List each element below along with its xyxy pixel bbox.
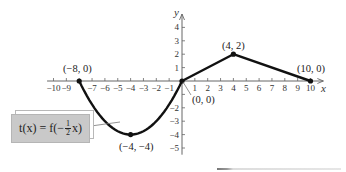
point-label-10-0: (10, 0) <box>297 63 325 75</box>
point-label-origin: (0, 0) <box>192 94 215 106</box>
function-label-prefix: t(x) = f(− <box>19 121 64 136</box>
svg-text:2: 2 <box>205 83 210 93</box>
svg-text:6: 6 <box>257 83 262 93</box>
svg-text:−3: −3 <box>139 83 149 93</box>
svg-text:5: 5 <box>244 83 249 93</box>
svg-text:3: 3 <box>218 83 223 93</box>
svg-text:1: 1 <box>175 63 180 73</box>
svg-text:−7: −7 <box>87 83 97 93</box>
svg-text:9: 9 <box>295 83 300 93</box>
svg-text:4: 4 <box>231 83 236 93</box>
function-graph: −10−9−7−6−5−4−3−2−112345678910−5−4−3−212… <box>0 0 346 172</box>
bottom-divider-bar <box>217 168 341 170</box>
fraction-denominator: 2 <box>66 129 70 137</box>
svg-text:10: 10 <box>306 83 316 93</box>
svg-text:−4: −4 <box>126 83 136 93</box>
svg-text:2: 2 <box>175 49 180 59</box>
function-label-suffix: x) <box>72 121 82 136</box>
svg-text:−2: −2 <box>169 103 179 113</box>
svg-text:−6: −6 <box>100 83 110 93</box>
point-label-4-2: (4, 2) <box>222 40 245 52</box>
svg-text:3: 3 <box>175 36 180 46</box>
point-label-neg4-neg4: (−4, −4) <box>119 141 154 153</box>
function-label-box: t(x) = f(− 1 2 x) <box>11 114 90 143</box>
svg-text:−2: −2 <box>152 83 162 93</box>
y-axis-label: y <box>173 6 179 18</box>
svg-text:−1: −1 <box>164 83 174 93</box>
svg-text:4: 4 <box>175 22 180 32</box>
x-axis-label: x <box>320 82 326 94</box>
svg-text:1: 1 <box>193 83 198 93</box>
origin-leader-line <box>183 82 191 95</box>
svg-text:−10: −10 <box>46 83 61 93</box>
svg-text:−9: −9 <box>62 83 72 93</box>
svg-text:8: 8 <box>283 83 288 93</box>
fraction-one-half: 1 2 <box>65 120 71 137</box>
svg-text:−4: −4 <box>169 130 179 140</box>
svg-text:7: 7 <box>270 83 275 93</box>
svg-text:−3: −3 <box>169 116 179 126</box>
point-label-neg8-0: (−8, 0) <box>63 63 92 75</box>
svg-text:−5: −5 <box>113 83 123 93</box>
svg-text:−5: −5 <box>169 143 179 153</box>
